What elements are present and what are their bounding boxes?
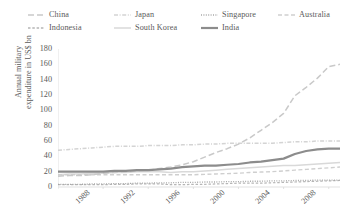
legend-item-australia[interactable]: Australia bbox=[278, 10, 330, 19]
legend-label: India bbox=[222, 23, 239, 32]
legend-item-singapore[interactable]: Singapore bbox=[201, 10, 256, 19]
legend-item-south-korea[interactable]: South Korea bbox=[114, 23, 177, 32]
y-tick-label: 60 bbox=[28, 137, 52, 145]
y-tick-label: 40 bbox=[28, 152, 52, 160]
legend-label: South Korea bbox=[135, 23, 177, 32]
legend-swatch-japan-icon bbox=[114, 11, 131, 19]
y-tick-label: 20 bbox=[28, 168, 52, 176]
legend-label: Indonesia bbox=[49, 23, 82, 32]
legend-label: Singapore bbox=[222, 10, 256, 19]
plot-area bbox=[58, 49, 340, 187]
x-tick-label: 2004 bbox=[254, 188, 272, 206]
x-tick-label: 1996 bbox=[164, 188, 182, 206]
y-tick-label: 80 bbox=[28, 122, 52, 130]
legend-item-india[interactable]: India bbox=[201, 23, 239, 32]
y-tick-label: 120 bbox=[28, 91, 52, 99]
legend-label: Japan bbox=[135, 10, 154, 19]
legend-item-japan[interactable]: Japan bbox=[114, 10, 154, 19]
series-line-south-korea bbox=[58, 162, 340, 174]
legend-swatch-india-icon bbox=[201, 24, 218, 32]
chart-legend: ChinaJapanSingaporeAustraliaIndonesiaSou… bbox=[28, 10, 340, 38]
legend-item-indonesia[interactable]: Indonesia bbox=[28, 23, 82, 32]
legend-label: China bbox=[49, 10, 69, 19]
series-line-indonesia bbox=[58, 180, 340, 184]
series-line-japan bbox=[58, 141, 340, 150]
y-tick-label: 140 bbox=[28, 76, 52, 84]
y-tick-label: 0 bbox=[28, 183, 52, 191]
legend-swatch-australia-icon bbox=[278, 11, 295, 19]
y-axis-tick-labels: 020406080100120140160180 bbox=[26, 45, 52, 190]
series-line-india bbox=[58, 149, 340, 172]
series-line-singapore bbox=[58, 180, 340, 184]
legend-swatch-south-korea-icon bbox=[114, 24, 131, 32]
x-tick-label: 2008 bbox=[299, 188, 317, 206]
y-tick-label: 160 bbox=[28, 60, 52, 68]
x-tick-label: 1988 bbox=[73, 188, 91, 206]
x-axis-tick-labels: 1988199219962000200420082012 bbox=[58, 188, 343, 222]
x-tick-label: 2000 bbox=[209, 188, 227, 206]
line-chart: ChinaJapanSingaporeAustraliaIndonesiaSou… bbox=[0, 0, 343, 223]
y-axis-title-line1: Annual military bbox=[14, 46, 23, 98]
y-tick-label: 180 bbox=[28, 45, 52, 53]
y-tick-label: 100 bbox=[28, 106, 52, 114]
legend-swatch-singapore-icon bbox=[201, 11, 218, 19]
series-line-china bbox=[58, 64, 340, 176]
legend-item-china[interactable]: China bbox=[28, 10, 69, 19]
legend-label: Australia bbox=[299, 10, 330, 19]
x-tick-label: 1992 bbox=[119, 188, 137, 206]
